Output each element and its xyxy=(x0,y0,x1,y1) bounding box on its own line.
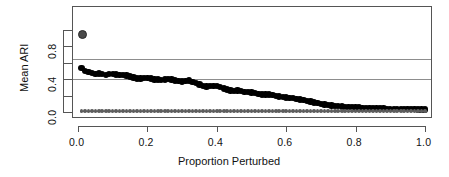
x-tick xyxy=(286,126,287,132)
x-tick-label: 0.6 xyxy=(277,136,292,148)
y-tick xyxy=(63,112,72,113)
y-tick-label: 0.4 xyxy=(46,77,58,92)
baseline-series-point xyxy=(423,109,427,113)
y-tick xyxy=(63,63,72,64)
x-axis-title: Proportion Perturbed xyxy=(178,155,280,167)
chart-figure: 0.00.40.8 0.00.20.40.60.81.0 Mean ARI Pr… xyxy=(0,0,449,177)
y-tick xyxy=(63,96,72,97)
x-tick xyxy=(147,126,148,132)
x-tick-label: 0.4 xyxy=(208,136,223,148)
plot-frame xyxy=(72,6,432,118)
upper-reference-line xyxy=(73,59,431,60)
x-tick xyxy=(425,126,426,132)
x-tick-label: 0.0 xyxy=(69,136,84,148)
lower-reference-line xyxy=(73,79,431,80)
x-axis-spine xyxy=(78,126,425,127)
x-tick-label: 1.0 xyxy=(416,136,431,148)
y-tick xyxy=(63,46,72,47)
y-axis-spine xyxy=(63,30,64,113)
outlier-point-point xyxy=(78,30,87,39)
x-tick xyxy=(78,126,79,132)
y-tick-label: 0.0 xyxy=(46,110,58,125)
x-tick-label: 0.8 xyxy=(347,136,362,148)
x-tick-label: 0.2 xyxy=(138,136,153,148)
x-tick xyxy=(217,126,218,132)
y-tick xyxy=(63,30,72,31)
y-tick xyxy=(63,79,72,80)
x-tick xyxy=(356,126,357,132)
y-tick-label: 0.8 xyxy=(46,44,58,59)
y-axis-title: Mean ARI xyxy=(18,44,30,92)
